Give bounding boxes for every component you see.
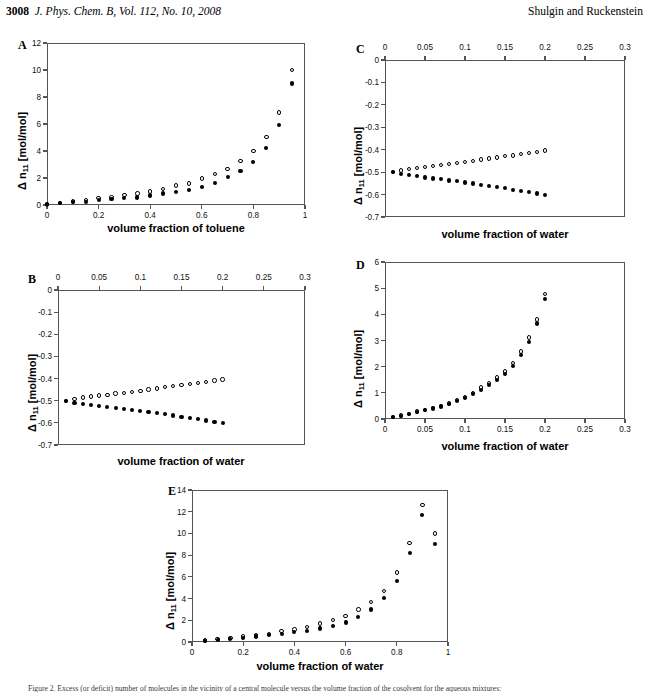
x-tick-mark — [201, 205, 202, 209]
y-tick-label: 14 — [152, 486, 186, 495]
data-point-open — [155, 386, 159, 390]
y-tick-label: 0 — [7, 201, 41, 210]
y-tick-mark — [381, 314, 385, 315]
data-point-filled — [204, 418, 208, 422]
data-point-filled — [479, 183, 483, 187]
x-axis-title: volume fraction of toluene — [46, 222, 306, 234]
figure-caption: Figure 2. Excess (or deficit) number of … — [28, 684, 628, 692]
data-point-open — [113, 391, 117, 395]
data-point-open — [487, 156, 491, 160]
data-point-filled — [109, 197, 113, 201]
x-tick-label: 0.3 — [299, 273, 310, 282]
x-tick-label: 1 — [303, 211, 308, 220]
data-point-open — [200, 176, 204, 180]
y-tick-label: -0.7 — [18, 441, 52, 450]
x-tick-mark — [544, 419, 545, 423]
x-tick-label: 0 — [190, 648, 195, 657]
x-tick-mark — [464, 419, 465, 423]
x-tick-label: 0.1 — [135, 273, 146, 282]
x-tick-label: 0.15 — [497, 425, 513, 434]
data-point-filled — [238, 169, 242, 173]
data-point-filled — [495, 378, 499, 382]
data-point-open — [543, 148, 547, 152]
data-point-open — [251, 149, 255, 153]
y-tick-label: -0.1 — [345, 78, 379, 87]
data-point-open — [187, 181, 191, 185]
y-tick-mark — [381, 288, 385, 289]
y-tick-label: 10 — [7, 66, 41, 75]
x-tick-label: 0.15 — [174, 273, 190, 282]
data-point-filled — [200, 185, 204, 189]
y-tick-mark — [43, 69, 47, 70]
x-tick-mark — [447, 642, 448, 646]
data-point-open — [179, 383, 183, 387]
x-tick-label: 0 — [383, 425, 388, 434]
y-tick-label: 5 — [345, 284, 379, 293]
data-point-open — [527, 335, 531, 339]
x-tick-mark — [150, 205, 151, 209]
data-point-filled — [463, 180, 467, 184]
y-tick-label: 4 — [345, 310, 379, 319]
x-tick-label: 0.1 — [459, 43, 470, 52]
y-tick-mark — [381, 149, 385, 150]
y-axis-title: Δ n11 [mol/mol] — [164, 552, 178, 630]
y-tick-label: 0 — [345, 415, 379, 424]
y-tick-mark — [188, 620, 192, 621]
x-axis-title: volume fraction of water — [375, 228, 635, 240]
y-tick-mark — [381, 216, 385, 217]
data-point-filled — [290, 81, 294, 85]
y-tick-mark — [381, 127, 385, 128]
x-tick-mark — [253, 205, 254, 209]
data-point-filled — [408, 551, 412, 555]
x-tick-label: 0.2 — [93, 211, 104, 220]
plot-area-a — [47, 43, 305, 205]
data-point-filled — [254, 634, 258, 638]
y-tick-mark — [381, 82, 385, 83]
x-tick-mark — [424, 56, 425, 60]
y-tick-label: 12 — [7, 39, 41, 48]
x-tick-mark — [544, 56, 545, 60]
data-point-open — [89, 394, 93, 398]
x-tick-mark — [243, 642, 244, 646]
plot-area-d — [385, 262, 625, 419]
data-point-filled — [511, 188, 515, 192]
data-point-filled — [431, 406, 435, 410]
y-tick-mark — [381, 340, 385, 341]
x-tick-mark — [384, 56, 385, 60]
data-point-filled — [519, 189, 523, 193]
data-point-open — [395, 570, 399, 574]
data-point-open — [318, 621, 322, 625]
data-point-filled — [241, 636, 245, 640]
y-tick-mark — [188, 555, 192, 556]
data-point-filled — [122, 407, 126, 411]
data-point-filled — [213, 181, 217, 185]
data-point-open — [105, 393, 109, 397]
x-tick-label: 0.1 — [459, 425, 470, 434]
y-tick-mark — [43, 96, 47, 97]
data-point-open — [146, 387, 150, 391]
x-tick-label: 0 — [45, 211, 50, 220]
data-point-filled — [280, 632, 284, 636]
data-point-open — [220, 377, 224, 381]
x-tick-mark — [140, 286, 141, 290]
y-tick-label: 0 — [345, 56, 379, 65]
x-tick-mark — [57, 286, 58, 290]
data-point-open — [356, 607, 360, 611]
data-point-open — [238, 159, 242, 163]
data-point-filled — [447, 178, 451, 182]
data-point-filled — [487, 184, 491, 188]
data-point-filled — [148, 193, 152, 197]
y-tick-mark — [43, 150, 47, 151]
x-tick-mark — [263, 286, 264, 290]
data-point-open — [264, 135, 268, 139]
y-axis-title: Δ n11 [mol/mol] — [352, 330, 366, 408]
y-tick-mark — [188, 511, 192, 512]
data-point-open — [343, 614, 347, 618]
data-point-open — [138, 389, 142, 393]
y-axis-title: Δ n11 [mol/mol] — [16, 112, 30, 190]
data-point-open — [535, 150, 539, 154]
y-tick-mark — [381, 392, 385, 393]
data-point-filled — [543, 297, 547, 301]
x-tick-label: 0.4 — [144, 211, 155, 220]
data-point-filled — [84, 200, 88, 204]
